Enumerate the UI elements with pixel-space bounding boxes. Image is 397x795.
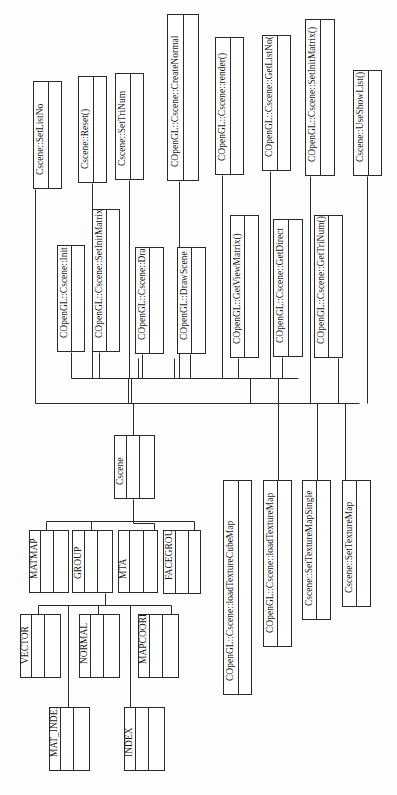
attributes-compartment [130,531,144,592]
class-name-label: Cscene::SetTextureMap [345,501,355,592]
operations-compartment [192,248,205,353]
class-name-label: MATMAP [30,538,40,579]
class-name-compartment: COpenGL::Cscene::GetTriNum() [315,216,329,357]
attributes-compartment [61,708,74,770]
operations-compartment [107,210,119,351]
class-name-compartment: COpenGL::Cscene::Init [58,246,72,351]
class-name-compartment: COpenGL::Cscene::GetDirect [274,220,289,356]
class-box-facegroup: FACEGROUP [163,530,201,594]
class-box-mapcoord: MAPCOORD [138,614,179,678]
operations-compartment [54,531,68,592]
operations-compartment [150,248,163,353]
class-name-compartment: NORMAL [80,615,91,677]
class-name-compartment: MAT_INDEX [50,708,61,770]
class-name-label: COpenGL::Cscene::loadTextureCubeMap [226,520,236,680]
class-box-set-tri-num: Cscene::SetTriNum [115,73,144,180]
class-name-label: COpenGL::Cscene::SetInitMatrix() [308,26,318,161]
attributes-compartment [176,531,189,593]
operations-compartment [163,615,178,677]
class-name-compartment: MTA [119,531,130,592]
class-box-vector: VECTOR [20,614,61,678]
operations-compartment [149,708,164,770]
operations-compartment [98,531,112,592]
class-name-label: COpenGL::DrawScene [180,251,190,340]
class-name-label: Cscene [116,457,126,484]
class-name-compartment: MAPCOORD [139,615,150,677]
class-name-label: COpenGL::Cscene::render() [218,52,228,160]
class-name-compartment: COpenGL::GetViewMatrix() [231,216,245,357]
class-box-set-list-no: Cscene::SetListNo [33,81,62,189]
class-name-compartment: Cscene::SetTextureMapSingle [303,481,317,619]
operations-compartment [317,481,330,619]
class-box-mta: MTA [118,530,158,593]
class-name-compartment: VECTOR [21,615,32,677]
operations-compartment [94,77,106,182]
operations-compartment [231,38,243,174]
operations-compartment [104,615,119,677]
class-box-create-normal: COpenGL::Cscene::CreateNormal [167,14,199,181]
class-box-init: COpenGL::Cscene::Init [57,245,85,352]
class-name-label: VECTOR [21,626,31,664]
class-name-label: Cscene::SetListNo [36,103,46,174]
class-box-reset: Cscene::Reset() [78,76,107,183]
class-box-get-tri-num: COpenGL::Cscene::GetTriNum() [314,215,343,358]
class-name-compartment: COpenGL::Cscene::CreateNormal [168,15,184,180]
class-name-label: Cscene::UseShowList() [356,71,366,161]
class-box-load-texture-cube-map: COpenGL::Cscene::loadTextureCubeMap [223,480,252,695]
class-name-label: COpenGL::Cscene::GetDirect [276,227,286,342]
operations-compartment [184,15,198,180]
class-name-label: Cscene::SetTriNum [118,90,128,165]
class-name-compartment: Cscene [115,436,127,498]
class-name-label: Cscene::SetTextureMapSingle [305,490,315,605]
class-box-group: GROUP [72,530,113,593]
class-box-set-texture-map-single: Cscene::SetTextureMapSingle [302,480,331,620]
class-name-compartment: Cscene::SetTextureMap [343,481,357,606]
operations-compartment [72,246,84,351]
class-name-label: COpenGL::Cscene::loadTextureMap [266,492,276,632]
class-box-normal: NORMAL [79,614,120,678]
class-box-matmap: MATMAP [29,530,69,593]
operations-compartment [278,481,291,646]
attributes-compartment [41,531,54,592]
attributes-compartment [91,615,104,677]
class-box-cscene: Cscene [114,435,155,499]
class-name-compartment: COpenGL::Cscene::loadTextureCubeMap [224,481,239,694]
class-name-label: COpenGL::GetViewMatrix() [233,233,243,344]
class-name-label: MTA [119,558,129,578]
class-name-label: MAPCOORD [139,615,149,664]
class-name-compartment: COpenGL::Cscene::render() [216,38,231,174]
class-name-compartment: Cscene::UseShowList() [354,71,369,175]
class-name-label: COpenGL::Cscene::GetListNo() [265,36,275,157]
class-name-compartment: GROUP [73,531,85,592]
operations-compartment [278,36,290,170]
operations-compartment [357,481,370,606]
attributes-compartment [32,615,45,677]
class-box-get-list-no: COpenGL::Cscene::GetListNo() [262,35,291,171]
attributes-compartment [85,531,98,592]
class-name-label: COpenGL::Cscene::Init [60,247,70,338]
operations-compartment [321,20,334,175]
class-box-draw-scene: COpenGL::DrawScene [177,247,206,354]
class-box-set-init-matrix: COpenGL::Cscene::SetInitMatrix [92,209,120,352]
operations-compartment [74,708,89,770]
class-name-label: GROUP [74,546,84,578]
operations-compartment [189,531,200,593]
class-name-compartment: COpenGL::Cscene::SetInitMatrix [93,210,107,351]
class-box-mat-index: MAT_INDEX [49,707,90,771]
attributes-compartment [127,436,140,498]
class-name-compartment: COpenGL::Cscene::GetListNo() [263,36,278,170]
uml-class-diagram: CsceneCscene::SetListNoCscene::Reset()Cs… [0,0,397,795]
class-box-get-view-matrix: COpenGL::GetViewMatrix() [230,215,259,358]
class-box-use-show-list: Cscene::UseShowList() [353,70,382,176]
class-name-compartment: Cscene::Reset() [79,77,94,182]
operations-compartment [245,216,258,357]
class-name-compartment: Cscene::SetTriNum [116,74,131,179]
attributes-compartment [136,708,149,770]
class-name-label: NORMAL [80,622,90,663]
class-name-compartment: COpenGL::DrawScene [178,248,192,353]
operations-compartment [289,220,302,356]
operations-compartment [49,82,61,188]
class-name-compartment: COpenGL::Cscene::SetInitMatrix() [306,20,321,175]
class-box-get-direct: COpenGL::Cscene::GetDirect [273,219,303,357]
class-name-compartment: Cscene::SetListNo [34,82,49,188]
